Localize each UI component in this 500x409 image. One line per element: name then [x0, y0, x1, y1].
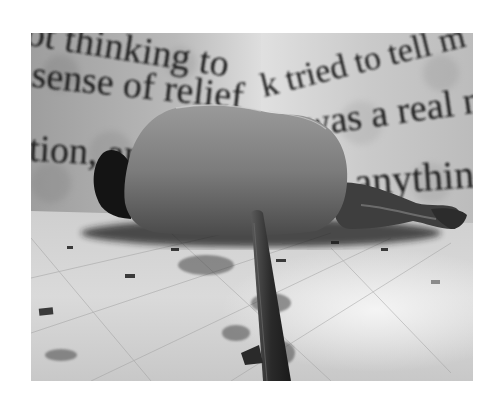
- scene: ot thinking to sense of relief tion, an …: [31, 33, 473, 381]
- photograph: ot thinking to sense of relief tion, an …: [31, 33, 473, 381]
- figure-body: [124, 105, 347, 236]
